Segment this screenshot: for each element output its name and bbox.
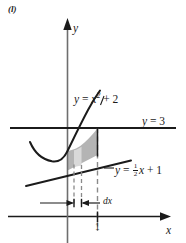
horizontal-line-label: y = 3	[142, 116, 165, 128]
x-axis-label: x	[166, 224, 171, 236]
shaded-area-region	[68, 128, 98, 171]
dimension-arrow-right	[82, 200, 90, 206]
parabola-eq-sign: =	[79, 93, 91, 105]
slant-eq-sign: =	[120, 164, 132, 176]
x-axis-arrowhead	[160, 212, 171, 220]
figure-container: (l)	[0, 0, 186, 243]
differential-label: dx	[103, 196, 112, 206]
slant-fraction: 12	[133, 163, 139, 179]
slant-constant: + 1	[144, 164, 162, 176]
x-axis-tick-label-1: 1	[95, 222, 100, 232]
parabola-equation-label: y = x2 + 2	[74, 92, 118, 105]
slant-line-label: y = 12x + 1	[115, 163, 162, 179]
slant-fraction-denominator: 2	[133, 171, 139, 178]
horizontal-value: 3	[159, 115, 165, 127]
parabola-constant: + 2	[100, 93, 118, 105]
y-axis-label: y	[73, 22, 78, 34]
dimension-arrow-left	[67, 200, 75, 206]
y-axis-arrowhead	[63, 18, 71, 30]
horizontal-eq-sign: =	[147, 115, 159, 127]
